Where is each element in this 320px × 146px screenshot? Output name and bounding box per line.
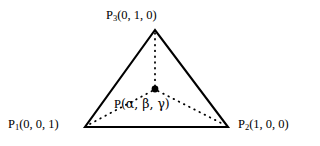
- vertex-label-p2: P2(1, 0, 0): [238, 118, 289, 131]
- vertex-label-p2-name: P: [238, 117, 245, 131]
- triangle-outline: [85, 30, 228, 127]
- interior-point-label-name: P: [114, 97, 121, 111]
- vertex-label-p1-coords: (0, 0, 1): [19, 117, 59, 131]
- vertex-label-p3: P3(0, 1, 0): [106, 9, 157, 22]
- vertex-label-p3-name: P: [106, 8, 113, 22]
- barycentric-triangle-figure: P3(0, 1, 0) P1(0, 0, 1) P2(1, 0, 0) P(α,…: [0, 0, 320, 146]
- interior-point-label-coords: (α, β, γ): [121, 96, 170, 111]
- interior-point-marker: [152, 86, 159, 93]
- vertex-label-p2-coords: (1, 0, 0): [249, 117, 289, 131]
- vertex-label-p3-coords: (0, 1, 0): [117, 8, 157, 22]
- vertex-label-p1-subscript: 1: [15, 122, 19, 132]
- vertex-label-p1-name: P: [8, 117, 15, 131]
- vertex-label-p2-subscript: 2: [245, 122, 249, 132]
- vertex-label-p1: P1(0, 0, 1): [8, 118, 59, 131]
- vertex-label-p3-subscript: 3: [113, 13, 117, 23]
- interior-point-label: P(α, β, γ): [114, 98, 170, 111]
